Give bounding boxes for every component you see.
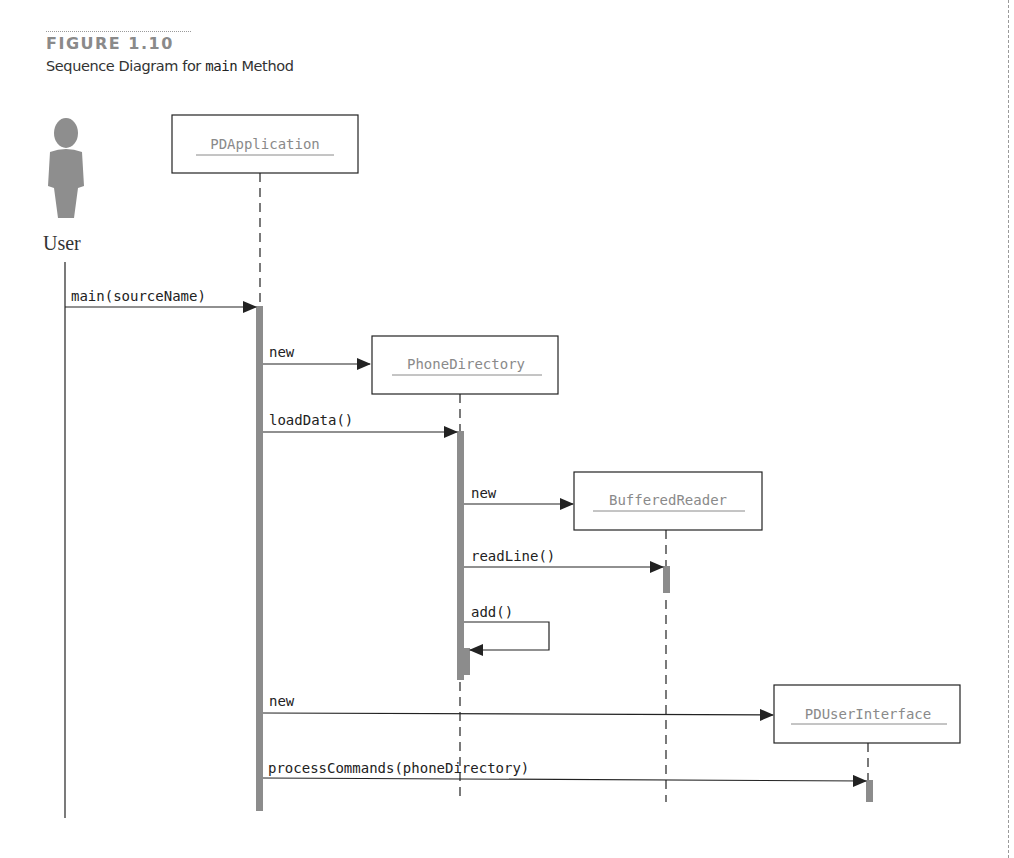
message-label: processCommands(phoneDirectory) <box>268 760 529 776</box>
activation-bar <box>457 431 464 680</box>
message-label: new <box>269 693 295 709</box>
object-name: BufferedReader <box>609 492 727 508</box>
message-readline: readLine() <box>464 548 663 567</box>
activation-bar <box>256 306 263 811</box>
sequence-diagram: User PDApplication PhoneDirectory Buffer… <box>0 0 1014 858</box>
object-name: PDUserInterface <box>805 706 931 722</box>
object-name: PhoneDirectory <box>407 356 525 372</box>
activation-bar <box>866 780 873 802</box>
object-pdapplication: PDApplication <box>172 115 358 811</box>
object-bufferedreader: BufferedReader <box>574 472 762 802</box>
message-label: new <box>471 485 497 501</box>
object-name: PDApplication <box>210 136 320 152</box>
message-add-self-call: add() <box>464 604 549 650</box>
message-label: readLine() <box>471 548 555 564</box>
message-label: add() <box>471 604 513 620</box>
message-label: main(sourceName) <box>71 288 206 304</box>
object-pduserinterface: PDUserInterface <box>774 685 960 802</box>
message-processcommands: processCommands(phoneDirectory) <box>263 760 866 781</box>
object-phonedirectory: PhoneDirectory <box>372 336 558 796</box>
message-new-bufferedreader: new <box>464 485 573 504</box>
actor-label: User <box>43 232 81 254</box>
nested-activation-bar <box>463 648 470 675</box>
message-new-pduserinterface: new <box>263 693 773 715</box>
message-loaddata: loadData() <box>263 412 457 432</box>
actor-user: User <box>43 118 84 818</box>
activation-bar <box>663 566 670 593</box>
person-icon <box>48 118 84 218</box>
message-main: main(sourceName) <box>65 288 256 307</box>
message-new-phonedirectory: new <box>263 344 370 364</box>
message-label: loadData() <box>269 412 353 428</box>
message-label: new <box>269 344 295 360</box>
